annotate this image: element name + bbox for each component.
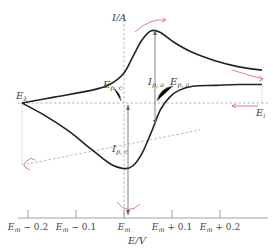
cathodic-peak-arrow-top bbox=[126, 105, 130, 110]
cathodic-peak-arrow-bottom bbox=[126, 210, 130, 215]
e-lambda-label: Eλ bbox=[15, 90, 27, 103]
direction-arrow-trough bbox=[117, 202, 140, 210]
e-i-label: Ei bbox=[255, 107, 265, 120]
direction-arrow-peak bbox=[135, 20, 165, 32]
y-axis-label: I/A bbox=[111, 12, 127, 23]
i-pa-label: Ip, a bbox=[147, 76, 164, 89]
svg-text:Ep, c: Ep, c bbox=[102, 79, 123, 92]
cathodic-baseline-extrapolation bbox=[22, 130, 200, 165]
direction-arrowhead bbox=[30, 158, 35, 160]
x-tick-label: Em bbox=[117, 222, 131, 234]
x-tick-label: Em − 0.1 bbox=[55, 222, 96, 234]
direction-arrow-right bbox=[232, 70, 263, 79]
svg-text:Ei: Ei bbox=[255, 107, 265, 120]
anodic-scan-curve bbox=[22, 30, 262, 103]
e-pc-label: Ep, c bbox=[102, 79, 123, 92]
svg-text:Ep, a: Ep, a bbox=[169, 76, 190, 89]
svg-text:Ip, a: Ip, a bbox=[147, 76, 164, 89]
x-axis-label: E/V bbox=[127, 235, 148, 246]
x-tick-label: Em + 0.2 bbox=[199, 222, 240, 234]
e-pa-label: Ep, a bbox=[169, 76, 190, 89]
cyclic-voltammogram: Em − 0.2Em − 0.1EmEm + 0.1Em + 0.2 I/A E… bbox=[0, 0, 273, 251]
direction-arrow-vertex bbox=[24, 159, 30, 170]
x-tick-label: Em + 0.1 bbox=[151, 222, 192, 234]
x-tick-label: Em − 0.2 bbox=[7, 222, 48, 234]
svg-text:Eλ: Eλ bbox=[15, 90, 27, 103]
